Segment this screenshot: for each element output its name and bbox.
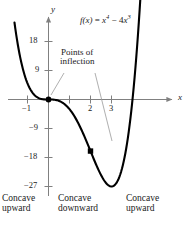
y-tick-label-9: 9 <box>35 65 39 74</box>
figure-container: f(x) = x4 − 4x3 x y 18 9 −9 −18 −27 −1 2… <box>0 0 192 228</box>
y-tick-label-18: 18 <box>29 36 38 45</box>
inflection-point-marker-origin <box>46 97 52 103</box>
concavity-label-middle: Concave downward <box>58 194 98 214</box>
concavity-label-middle-line2: downward <box>58 204 98 214</box>
concavity-label-right-line2: upward <box>126 204 159 214</box>
y-axis-label: y <box>51 5 55 14</box>
x-tick-label-2: 2 <box>88 104 92 113</box>
equation-minus: − 4 <box>109 15 123 25</box>
y-tick-label-neg9: −9 <box>29 123 38 132</box>
concavity-label-left: Concave upward <box>2 194 35 214</box>
equation-label: f(x) = x4 − 4x3 <box>80 14 131 25</box>
leader-line-left <box>51 73 64 95</box>
x-tick-label-neg1: −1 <box>22 104 31 113</box>
inflection-annotation-line2: inflection <box>60 56 95 66</box>
concavity-label-right: Concave upward <box>126 194 159 214</box>
equation-fx: f(x) <box>80 15 93 25</box>
inflection-point-marker-two <box>88 148 93 153</box>
y-tick-label-neg18: −18 <box>24 152 37 161</box>
x-axis-label: x <box>178 93 182 102</box>
y-tick-label-neg27: −27 <box>24 181 37 190</box>
inflection-annotation: Points of inflection <box>60 48 95 67</box>
x-tick-label-3: 3 <box>109 104 113 113</box>
equation-equals: = <box>93 15 103 25</box>
concavity-label-left-line2: upward <box>2 204 35 214</box>
equation-term2-exponent: 3 <box>127 13 130 20</box>
